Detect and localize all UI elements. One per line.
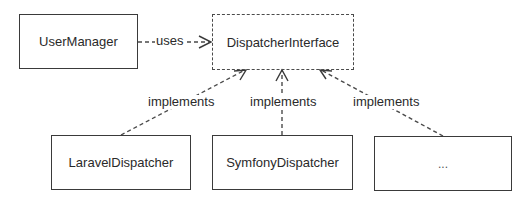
other-dispatcher-box: ... (374, 136, 512, 191)
symfony-dispatcher-label: SymfonyDispatcher (226, 155, 339, 170)
user-manager-label: UserManager (39, 34, 118, 49)
user-manager-box: UserManager (19, 14, 138, 69)
other-dispatcher-label: ... (438, 157, 448, 171)
dispatcher-interface-box: DispatcherInterface (212, 14, 354, 70)
symfony-dispatcher-box: SymfonyDispatcher (212, 135, 353, 190)
diagram-canvas: UserManager DispatcherInterface LaravelD… (0, 0, 527, 203)
implements-label-middle: implements (249, 95, 317, 109)
laravel-dispatcher-label: LaravelDispatcher (69, 155, 174, 170)
dispatcher-interface-label: DispatcherInterface (227, 35, 340, 50)
implements-label-right: implements (352, 95, 420, 109)
implements-label-left: implements (147, 95, 215, 109)
laravel-dispatcher-box: LaravelDispatcher (51, 135, 191, 190)
uses-label: uses (155, 34, 184, 48)
